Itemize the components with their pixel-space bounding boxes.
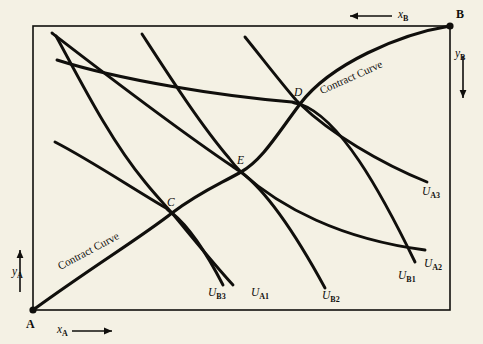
curve-label-ub3: UB3 [208,287,226,301]
curve-label-ub2-sub: B2 [330,295,339,304]
curve-label-ub1: UB1 [398,270,416,284]
y-b-axis-label: yB [455,48,465,62]
point-label-d: D [294,87,302,99]
curve-label-ua2: UA2 [424,258,442,272]
diagram-canvas [0,0,483,344]
contract-curve [33,26,450,310]
point-label-c: C [167,197,175,209]
y-b-axis-arrow [460,56,467,98]
curve-label-ub3-sub: B3 [216,292,225,301]
curve-label-ub1-sub: B1 [406,275,415,284]
x-a-axis-label-sub: A [62,329,68,338]
origin-b-dot [446,22,453,29]
curve-label-ua2-sub: A2 [432,263,442,272]
y-b-axis-label-sub: B [460,53,465,62]
x-a-axis-arrow [72,328,112,335]
indifference-curve-ua3 [245,37,427,182]
x-b-axis-label-sub: B [403,14,408,23]
y-a-axis-label-sub: A [17,271,23,280]
origin-a-dot [29,306,36,313]
curve-label-ua3: UA3 [422,186,440,200]
origin-b-label: B [456,8,464,20]
curve-label-ua1-sub: A1 [259,292,269,301]
indifference-curve-ub3 [55,142,223,285]
edgeworth-box-figure: A B xA yA xB yB C E D Contract Curve Con… [0,0,483,344]
x-b-axis-arrow [350,13,392,20]
curve-label-ub2: UB2 [322,290,340,304]
origin-a-label: A [26,318,35,330]
curve-label-ua1: UA1 [251,287,269,301]
x-b-axis-label: xB [398,9,408,23]
point-label-e: E [237,155,244,167]
curve-label-ua3-sub: A3 [430,191,440,200]
y-a-axis-label: yA [12,266,23,280]
x-a-axis-label: xA [57,324,68,338]
